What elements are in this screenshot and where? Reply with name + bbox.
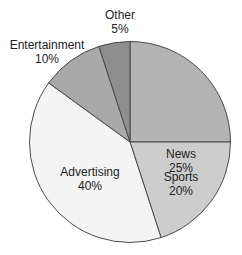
label-name: Other: [105, 8, 135, 22]
slice-label-entertainment: Entertainment 10%: [10, 38, 85, 66]
label-pct: 5%: [105, 22, 135, 36]
label-name: Advertising: [60, 165, 119, 179]
label-name: News: [166, 147, 196, 161]
slice-label-sports: Sports 20%: [164, 170, 199, 198]
slice-label-advertising: Advertising 40%: [60, 165, 119, 193]
label-pct: 20%: [164, 184, 199, 198]
label-name: Entertainment: [10, 38, 85, 52]
label-pct: 40%: [60, 179, 119, 193]
label-name: Sports: [164, 170, 199, 184]
label-pct: 10%: [10, 52, 85, 66]
slice-label-other: Other 5%: [105, 8, 135, 36]
pie-slice-news: [130, 42, 231, 143]
